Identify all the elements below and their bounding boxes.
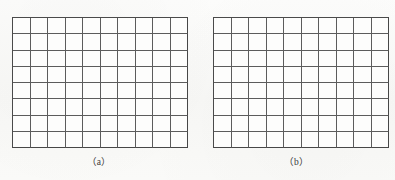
grid-cell[interactable] <box>249 67 267 83</box>
grid-cell[interactable] <box>118 34 136 50</box>
grid-cell[interactable] <box>319 99 337 115</box>
grid-cell[interactable] <box>13 132 31 148</box>
grid-cell[interactable] <box>214 51 232 67</box>
grid-cell[interactable] <box>337 132 355 148</box>
grid-cell[interactable] <box>354 51 372 67</box>
grid-cell[interactable] <box>249 116 267 132</box>
grid-cell[interactable] <box>302 51 320 67</box>
grid-cell[interactable] <box>31 67 49 83</box>
grid-cell[interactable] <box>118 116 136 132</box>
grid-cell[interactable] <box>171 67 189 83</box>
grid-cell[interactable] <box>249 132 267 148</box>
grid-cell[interactable] <box>31 34 49 50</box>
grid-cell[interactable] <box>319 67 337 83</box>
grid-cell[interactable] <box>153 67 171 83</box>
grid-cell[interactable] <box>83 99 101 115</box>
grid-cell[interactable] <box>101 34 119 50</box>
grid-cell[interactable] <box>153 99 171 115</box>
grid-cell[interactable] <box>284 34 302 50</box>
grid-cell[interactable] <box>319 51 337 67</box>
grid-cell[interactable] <box>153 132 171 148</box>
grid-cell[interactable] <box>48 51 66 67</box>
grid-cell[interactable] <box>232 51 250 67</box>
grid-cell[interactable] <box>171 51 189 67</box>
grid-cell[interactable] <box>171 116 189 132</box>
grid-cell[interactable] <box>83 34 101 50</box>
grid-cell[interactable] <box>136 51 154 67</box>
grid-cell[interactable] <box>101 83 119 99</box>
grid-cell[interactable] <box>153 83 171 99</box>
grid-cell[interactable] <box>214 83 232 99</box>
grid-cell[interactable] <box>337 116 355 132</box>
grid-cell[interactable] <box>354 132 372 148</box>
grid-cell[interactable] <box>354 116 372 132</box>
grid-cell[interactable] <box>118 18 136 34</box>
grid-cell[interactable] <box>337 99 355 115</box>
grid-cell[interactable] <box>48 132 66 148</box>
grid-cell[interactable] <box>101 99 119 115</box>
grid-cell[interactable] <box>48 34 66 50</box>
grid-cell[interactable] <box>83 51 101 67</box>
grid-cell[interactable] <box>83 132 101 148</box>
grid-cell[interactable] <box>214 116 232 132</box>
grid-cell[interactable] <box>232 67 250 83</box>
grid-cell[interactable] <box>101 18 119 34</box>
grid-cell[interactable] <box>302 99 320 115</box>
grid-cell[interactable] <box>31 83 49 99</box>
grid-cell[interactable] <box>337 67 355 83</box>
grid-cell[interactable] <box>319 83 337 99</box>
grid-cell[interactable] <box>302 116 320 132</box>
grid-cell[interactable] <box>171 18 189 34</box>
grid-cell[interactable] <box>267 67 285 83</box>
grid-cell[interactable] <box>101 116 119 132</box>
grid-cell[interactable] <box>302 34 320 50</box>
grid-cell[interactable] <box>372 18 390 34</box>
grid-cell[interactable] <box>249 51 267 67</box>
grid-cell[interactable] <box>214 18 232 34</box>
grid-cell[interactable] <box>214 34 232 50</box>
grid-cell[interactable] <box>249 34 267 50</box>
grid-cell[interactable] <box>372 67 390 83</box>
grid-cell[interactable] <box>354 18 372 34</box>
grid-cell[interactable] <box>284 51 302 67</box>
grid-cell[interactable] <box>232 99 250 115</box>
grid-cell[interactable] <box>302 83 320 99</box>
grid-cell[interactable] <box>118 83 136 99</box>
grid-cell[interactable] <box>13 67 31 83</box>
grid-cell[interactable] <box>284 99 302 115</box>
grid-cell[interactable] <box>354 34 372 50</box>
grid-cell[interactable] <box>214 99 232 115</box>
grid-cell[interactable] <box>337 18 355 34</box>
grid-cell[interactable] <box>354 99 372 115</box>
grid-cell[interactable] <box>302 67 320 83</box>
grid-cell[interactable] <box>249 18 267 34</box>
grid-cell[interactable] <box>13 83 31 99</box>
grid-cell[interactable] <box>31 116 49 132</box>
grid-cell[interactable] <box>372 99 390 115</box>
grid-cell[interactable] <box>31 99 49 115</box>
grid-cell[interactable] <box>337 83 355 99</box>
grid-cell[interactable] <box>83 67 101 83</box>
grid-cell[interactable] <box>118 99 136 115</box>
grid-cell[interactable] <box>372 116 390 132</box>
grid-cell[interactable] <box>66 99 84 115</box>
grid-cell[interactable] <box>267 34 285 50</box>
grid-cell[interactable] <box>48 67 66 83</box>
grid-cell[interactable] <box>214 132 232 148</box>
grid-cell[interactable] <box>13 34 31 50</box>
grid-cell[interactable] <box>267 116 285 132</box>
grid-cell[interactable] <box>48 99 66 115</box>
grid-cell[interactable] <box>232 83 250 99</box>
grid-cell[interactable] <box>66 67 84 83</box>
grid-cell[interactable] <box>153 51 171 67</box>
grid-cell[interactable] <box>153 116 171 132</box>
grid-cell[interactable] <box>249 99 267 115</box>
grid-cell[interactable] <box>66 18 84 34</box>
grid-cell[interactable] <box>13 51 31 67</box>
grid-cell[interactable] <box>136 34 154 50</box>
grid-cell[interactable] <box>118 51 136 67</box>
grid-cell[interactable] <box>232 34 250 50</box>
grid-cell[interactable] <box>267 18 285 34</box>
grid-cell[interactable] <box>284 116 302 132</box>
grid-cell[interactable] <box>101 132 119 148</box>
